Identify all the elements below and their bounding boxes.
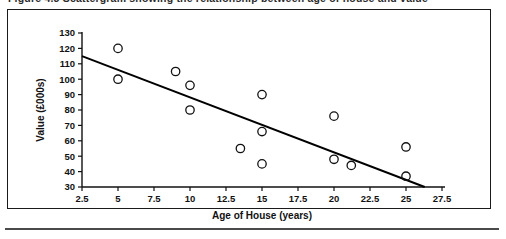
figure-caption: Figure 4.3 Scattergram showing the relat…: [8, 0, 428, 4]
figure-caption-strip: Figure 4.3 Scattergram showing the relat…: [0, 0, 506, 9]
page-divider-rule: [5, 228, 499, 230]
x-axis-title: Age of House (years): [212, 210, 312, 221]
figure-border: [7, 9, 491, 209]
